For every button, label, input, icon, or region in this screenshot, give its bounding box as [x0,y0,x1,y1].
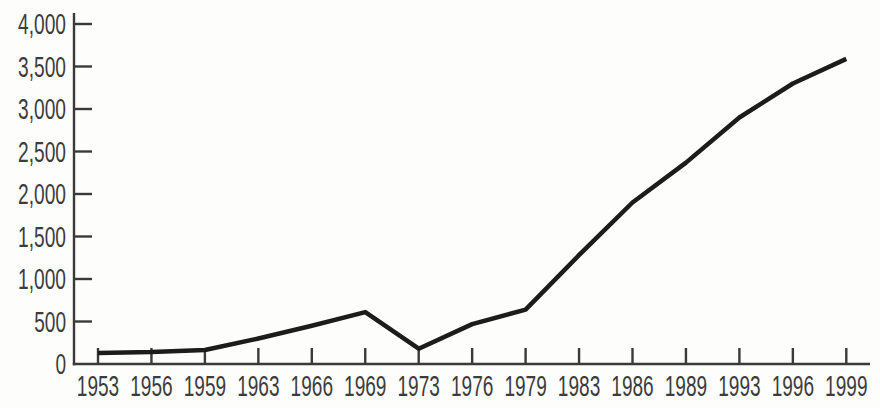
y-tick-label: 2,000 [18,178,66,210]
line-chart: 05001,0001,5002,0002,5003,0003,5004,0001… [0,0,880,408]
x-tick-label: 1959 [184,370,226,402]
x-tick-label: 1976 [451,370,493,402]
y-tick-label: 4,000 [18,8,66,40]
y-tick-label: 3,500 [18,51,66,83]
x-tick-label: 1989 [665,370,707,402]
x-tick-label: 1979 [504,370,546,402]
x-tick-label: 1963 [237,370,279,402]
x-tick-label: 1969 [344,370,386,402]
y-tick-label: 500 [34,306,66,338]
line-chart-figure: 05001,0001,5002,0002,5003,0003,5004,0001… [0,0,880,408]
x-tick-label: 1996 [772,370,814,402]
x-tick-label: 1966 [291,370,333,402]
y-tick-label: 0 [55,348,66,380]
y-tick-label: 1,500 [18,221,66,253]
x-tick-label: 1953 [77,370,119,402]
chart-background [0,0,880,408]
x-tick-label: 1999 [825,370,867,402]
y-tick-label: 3,000 [18,93,66,125]
x-tick-label: 1986 [611,370,653,402]
y-tick-label: 2,500 [18,136,66,168]
y-tick-label: 1,000 [18,263,66,295]
x-tick-label: 1993 [718,370,760,402]
x-tick-label: 1983 [558,370,600,402]
x-tick-label: 1973 [398,370,440,402]
x-tick-label: 1956 [130,370,172,402]
